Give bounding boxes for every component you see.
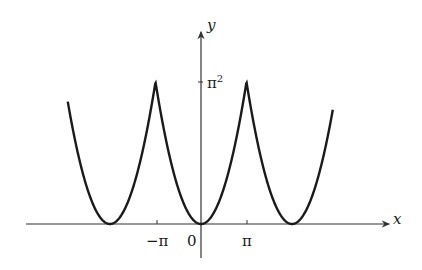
chart: x y −π 0 π π2 — [0, 0, 422, 270]
periodic-parabola-curve — [68, 83, 333, 224]
x-tick-label-zero: 0 — [187, 232, 197, 250]
x-tick-label-pi: π — [242, 232, 252, 250]
x-tick-label-neg-pi: −π — [146, 232, 169, 250]
y-tick-label-pi-squared: π2 — [207, 73, 223, 92]
x-axis-label: x — [393, 210, 402, 228]
y-axis-label: y — [206, 16, 216, 34]
